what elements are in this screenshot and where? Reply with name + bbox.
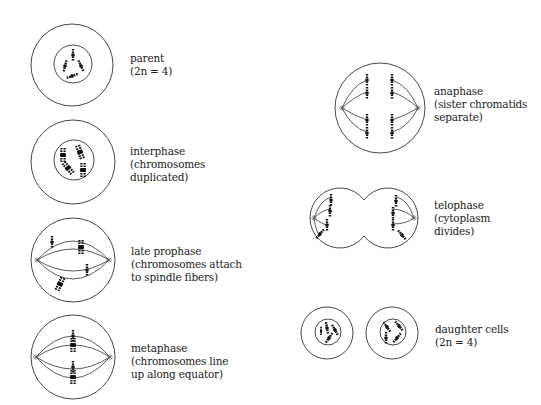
stage-detail: duplicated)	[130, 171, 205, 184]
stage-detail: (chromosomes line	[131, 355, 228, 368]
stage-name: parent	[130, 52, 172, 65]
daughter-cell-right	[366, 307, 418, 359]
label-metaphase: metaphase (chromosomes line up along equ…	[131, 342, 228, 381]
late-prophase-cell	[31, 218, 115, 302]
label-late-prophase: late prophase (chromosomes attach to spi…	[131, 245, 242, 284]
interphase-cell	[31, 120, 115, 204]
stage-detail: (chromosomes	[130, 158, 205, 171]
stage-name: daughter cells	[435, 323, 508, 336]
stage-name: anaphase	[434, 85, 527, 98]
stage-detail: up along equator)	[131, 368, 228, 381]
stage-name: telophase	[434, 199, 490, 212]
stage-detail: (cytoplasm	[434, 212, 490, 225]
stage-detail: separate)	[434, 111, 527, 124]
telophase-cell	[310, 188, 418, 248]
parent-cell	[31, 24, 113, 106]
anaphase-cell	[335, 63, 425, 153]
stage-detail: (2n = 4)	[435, 336, 508, 349]
stage-name: interphase	[130, 145, 205, 158]
stage-detail: (sister chromatids	[434, 98, 527, 111]
label-daughter-cells: daughter cells (2n = 4)	[435, 323, 508, 349]
stage-name: late prophase	[131, 245, 242, 258]
label-anaphase: anaphase (sister chromatids separate)	[434, 85, 527, 124]
stage-detail: (2n = 4)	[130, 65, 172, 78]
metaphase-cell	[31, 315, 115, 399]
stage-detail: to spindle fibers)	[131, 271, 242, 284]
label-interphase: interphase (chromosomes duplicated)	[130, 145, 205, 184]
label-telophase: telophase (cytoplasm divides)	[434, 199, 490, 238]
label-parent: parent (2n = 4)	[130, 52, 172, 78]
stage-name: metaphase	[131, 342, 228, 355]
stage-detail: divides)	[434, 225, 490, 238]
stage-detail: (chromosomes attach	[131, 258, 242, 271]
daughter-cell-left	[301, 307, 353, 359]
